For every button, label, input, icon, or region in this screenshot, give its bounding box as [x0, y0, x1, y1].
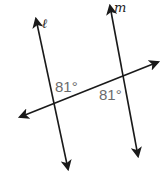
line-l-label: ℓ: [42, 16, 48, 31]
line-m-label: m: [114, 0, 126, 15]
angle-label-2: 81°: [99, 86, 122, 103]
parallel-lines-diagram: ℓ m 81° 81°: [0, 0, 163, 171]
transversal-line: [20, 62, 158, 117]
angle-label-1: 81°: [55, 78, 78, 95]
line-m: [110, 6, 138, 156]
